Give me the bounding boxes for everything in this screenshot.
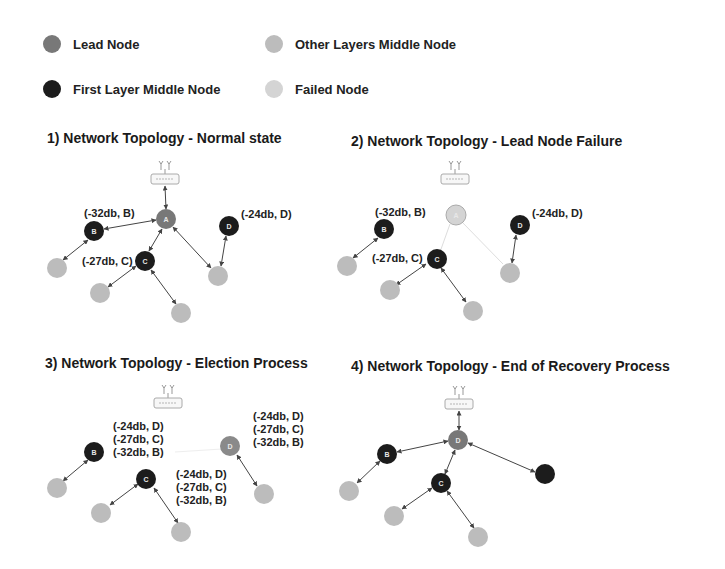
svg-text:(-32db, B): (-32db, B) [176,494,227,506]
svg-text:B: B [91,228,96,235]
panel-2-lead-node-failure: A B C D (-32db, B) (-27db, C) (-24db, D) [337,161,583,321]
svg-text:D: D [226,223,231,230]
panel-4-end-of-recovery: D B C [339,386,555,547]
svg-text:(-32db, B): (-32db, B) [84,207,135,219]
svg-text:A: A [163,216,168,223]
svg-text:B: B [384,451,389,458]
svg-text:(-32db, B): (-32db, B) [253,436,304,448]
svg-text:(-24db, D): (-24db, D) [176,468,227,480]
svg-text:(-32db, B): (-32db, B) [375,206,426,218]
svg-text:A: A [453,212,458,219]
svg-text:(-27db, C): (-27db, C) [176,481,227,493]
svg-text:C: C [143,476,148,483]
svg-text:D: D [455,437,460,444]
svg-text:B: B [381,226,386,233]
svg-text:(-27db, C): (-27db, C) [82,255,133,267]
router-icon [445,386,473,409]
svg-text:(-27db, C): (-27db, C) [113,433,164,445]
svg-text:(-24db, D): (-24db, D) [532,207,583,219]
svg-text:D: D [227,443,232,450]
svg-text:(-32db, B): (-32db, B) [113,446,164,458]
router-icon [154,385,182,408]
svg-text:C: C [438,480,443,487]
svg-text:C: C [142,258,147,265]
svg-text:(-24db, D): (-24db, D) [253,410,304,422]
svg-text:(-27db, C): (-27db, C) [253,423,304,435]
svg-text:C: C [434,256,439,263]
network-diagrams: A B C D (-32db, B) (-27db, C) (-24db, D)… [0,0,725,569]
svg-text:(-24db, D): (-24db, D) [241,208,292,220]
svg-text:(-27db, C): (-27db, C) [372,252,423,264]
router-icon [151,161,179,184]
router-icon [441,161,469,184]
panel-1-normal-state: A B C D (-32db, B) (-27db, C) (-24db, D) [47,161,292,323]
svg-text:D: D [517,222,522,229]
panel-3-election-process: B C D (-24db, D) (-27db, C) (-32db, B) (… [47,385,304,542]
svg-text:B: B [91,449,96,456]
svg-text:(-24db, D): (-24db, D) [113,420,164,432]
